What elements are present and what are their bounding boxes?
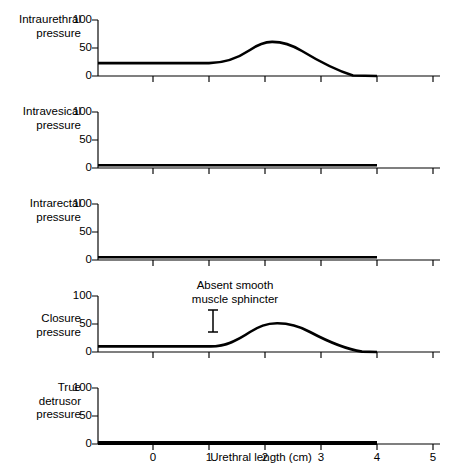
- ytick-50-panel5: 50: [62, 410, 92, 422]
- ytick-0-panel4: 0: [62, 346, 92, 358]
- ytick-0-panel3: 0: [62, 254, 92, 266]
- ytick-0-panel5: 0: [62, 438, 92, 450]
- ytick-100-panel1: 100: [62, 14, 92, 26]
- panel-intraurethral: Intraurethral pressure 100 50 0: [0, 0, 462, 92]
- ytick-50-panel3: 50: [62, 226, 92, 238]
- ytick-100-panel5: 100: [62, 382, 92, 394]
- x-axis-title: Urethral length (cm): [60, 451, 462, 464]
- annotation-absent-smooth-muscle-sphincter: Absent smooth muscle sphincter: [160, 279, 310, 306]
- ytick-0-panel1: 0: [62, 70, 92, 82]
- ytick-0-panel2: 0: [62, 162, 92, 174]
- ytick-50-panel1: 50: [62, 42, 92, 54]
- i-beam-marker: [208, 310, 218, 332]
- ytick-100-panel2: 100: [62, 106, 92, 118]
- panel-closure: Closure pressure 100 50 0 Absent smooth …: [0, 276, 462, 368]
- curve-intraurethral: [98, 42, 377, 76]
- ytick-50-panel2: 50: [62, 134, 92, 146]
- panel-intrarectal: Intrarectal pressure 100 50 0: [0, 184, 462, 276]
- urethral-pressure-profile-figure: Intraurethral pressure 100 50 0 Intraves…: [0, 0, 462, 466]
- ytick-100-panel3: 100: [62, 198, 92, 210]
- curve-closure: [98, 323, 377, 352]
- ytick-100-panel4: 100: [62, 290, 92, 302]
- panel-intravesical: Intravesical pressure 100 50 0: [0, 92, 462, 184]
- ytick-50-panel4: 50: [62, 318, 92, 330]
